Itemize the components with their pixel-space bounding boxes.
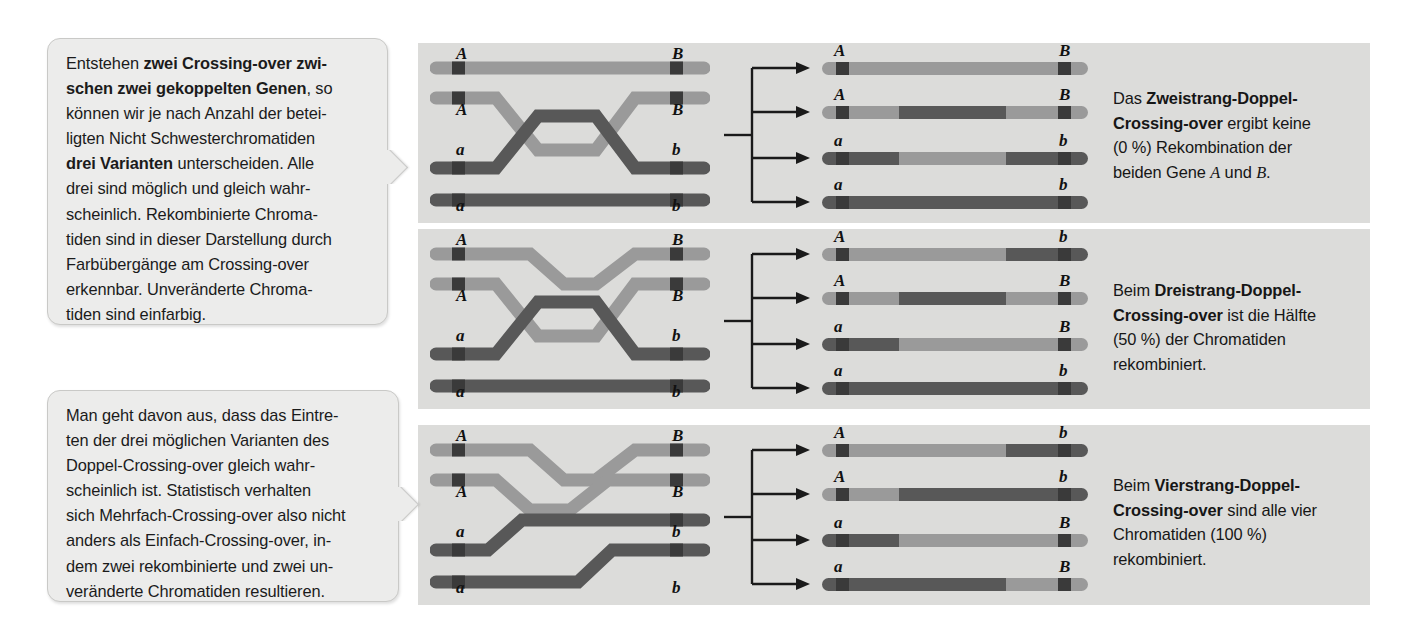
chromatid-segment (822, 534, 899, 547)
product-allele-right: B (1059, 317, 1070, 337)
product-allele-right: B (1059, 557, 1070, 577)
allele-left-p2-4: a (456, 382, 465, 402)
gene-marker-right (1058, 248, 1071, 261)
allele-left-p2-1: A (456, 230, 467, 250)
caption-vierstrang: Beim Vierstrang-Doppel- Crossing-over si… (1113, 473, 1353, 571)
caption-fragment: Beim (1113, 281, 1154, 299)
gene-marker-left (836, 578, 849, 591)
gene-marker-left (836, 444, 849, 457)
chromatid-segment (822, 382, 1088, 395)
allele-right-p2-4: b (672, 382, 681, 402)
callout-left-bottom: Man geht davon aus, dass das Eintre- ten… (47, 390, 399, 602)
product-allele-right: b (1059, 175, 1068, 195)
product-allele-left: a (834, 175, 843, 195)
product-allele-right: b (1059, 131, 1068, 151)
bracket-arrows-zweistrang (722, 50, 818, 220)
gene-marker-right (1058, 62, 1071, 75)
gene-marker-right (1058, 338, 1071, 351)
gene-marker-right (1058, 152, 1071, 165)
chromatid-segment (1006, 578, 1088, 591)
allele-left-p3-4: a (456, 578, 465, 598)
allele-left-p3-3: a (456, 522, 465, 542)
crossover-diagram-zweistrang (430, 50, 710, 218)
product-chromatid (822, 444, 1088, 457)
product-allele-left: a (834, 361, 843, 381)
callout-left-bottom-text: Man geht davon aus, dass das Eintre- ten… (48, 391, 398, 615)
caption-fragment: Das (1113, 89, 1146, 107)
figure-canvas: Entstehen zwei Crossing-over zwi- schen … (0, 0, 1414, 630)
gene-marker-right (1058, 196, 1071, 209)
caption-fragment: A (1210, 163, 1220, 182)
caption-dreistrang: Beim Dreistrang-Doppel- Crossing-over is… (1113, 278, 1353, 376)
allele-right-p1-3: b (672, 140, 681, 160)
gene-marker-right (1058, 106, 1071, 119)
chromatid-segment (822, 292, 899, 305)
product-allele-left: a (834, 557, 843, 577)
callout-left-top-text: Entstehen zwei Crossing-over zwi- schen … (48, 39, 387, 338)
chromatid-segment (822, 196, 1088, 209)
chromatid-segment (822, 62, 1088, 75)
gene-marker-left (836, 62, 849, 75)
gene-marker-left (836, 248, 849, 261)
gene-marker-right (1058, 578, 1071, 591)
chromatid-segment (899, 292, 1005, 305)
gene-marker-right (1058, 534, 1071, 547)
product-allele-left: A (834, 467, 845, 487)
product-allele-left: a (834, 317, 843, 337)
allele-right-p3-2: B (672, 482, 683, 502)
gene-marker-left (836, 106, 849, 119)
callout-left-top: Entstehen zwei Crossing-over zwi- schen … (47, 38, 388, 325)
gene-marker-right (1058, 488, 1071, 501)
allele-right-p1-1: B (672, 44, 683, 64)
allele-right-p2-2: B (672, 286, 683, 306)
chromatid-segment (822, 338, 899, 351)
allele-left-p2-3: a (456, 326, 465, 346)
product-chromatid (822, 152, 1088, 165)
gene-marker-left (836, 292, 849, 305)
gene-marker-right (1058, 382, 1071, 395)
chromatid-segment (1006, 106, 1088, 119)
product-allele-left: a (834, 131, 843, 151)
product-chromatid (822, 62, 1088, 75)
product-allele-right: b (1059, 227, 1068, 247)
product-chromatid (822, 248, 1088, 261)
callout-left-bottom-tail (398, 487, 424, 521)
product-allele-right: B (1059, 41, 1070, 61)
chromatid-segment (822, 444, 1006, 457)
chromatid-segment (899, 106, 1005, 119)
caption-fragment: . (1266, 163, 1270, 181)
gene-marker-right (1058, 444, 1071, 457)
product-allele-right: b (1059, 361, 1068, 381)
gene-marker-left (836, 152, 849, 165)
gene-marker-right (1058, 292, 1071, 305)
chromatid-segment (822, 578, 1006, 591)
product-allele-right: b (1059, 423, 1068, 443)
gene-marker-left (836, 382, 849, 395)
product-allele-left: A (834, 227, 845, 247)
product-chromatid (822, 488, 1088, 501)
allele-right-p3-1: B (672, 426, 683, 446)
chromatid-segment (1006, 292, 1088, 305)
gene-marker-left (836, 196, 849, 209)
crossover-diagram-dreistrang (430, 236, 710, 404)
allele-left-p2-2: A (456, 286, 467, 306)
allele-right-p3-3: b (672, 522, 681, 542)
product-allele-left: A (834, 41, 845, 61)
allele-left-p3-1: A (456, 426, 467, 446)
chromatid-segment (1006, 248, 1088, 261)
allele-right-p1-2: B (672, 100, 683, 120)
product-allele-left: A (834, 85, 845, 105)
product-allele-left: a (834, 513, 843, 533)
chromatid-segment (1006, 444, 1088, 457)
product-chromatid (822, 106, 1088, 119)
gene-marker-left (836, 338, 849, 351)
gene-marker-left (836, 488, 849, 501)
product-allele-left: A (834, 271, 845, 291)
allele-right-p2-1: B (672, 230, 683, 250)
allele-left-p1-3: a (456, 140, 465, 160)
caption-zweistrang: Das Zweistrang-Doppel- Crossing-over erg… (1113, 86, 1353, 185)
caption-fragment: und (1220, 163, 1256, 181)
bracket-arrows-vierstrang (722, 432, 818, 602)
chromatid-segment (822, 488, 899, 501)
allele-right-p3-4: b (672, 578, 681, 598)
